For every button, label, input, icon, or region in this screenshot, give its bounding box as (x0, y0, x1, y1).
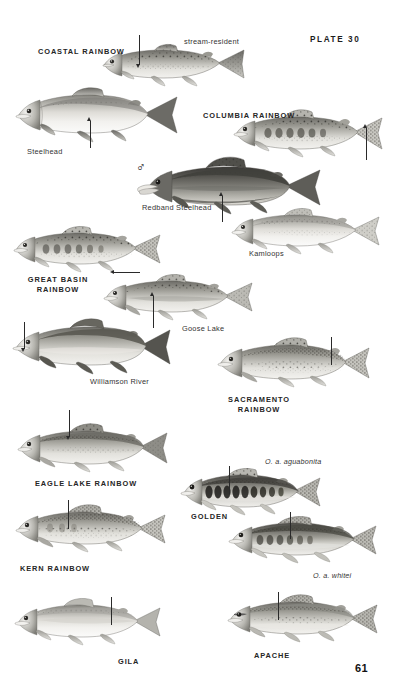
fish-kamloops (226, 207, 388, 255)
label-sacramento-rainbow-line2: RAINBOW (222, 405, 296, 414)
label-oa-whitei: O. a. whitei (313, 571, 351, 580)
label-stream-resident: stream-resident (184, 37, 239, 46)
fish-goose-lake (98, 272, 260, 322)
leader-williamson-river (24, 322, 25, 349)
fish-steelhead (10, 88, 185, 144)
fish-apache (222, 592, 386, 646)
label-kamloops: Kamloops (249, 249, 284, 258)
fish-great-basin-rainbow (8, 224, 168, 274)
leader-arrow-eagle-lake-rainbow (66, 436, 70, 440)
leader-golden-whitei (290, 512, 291, 539)
label-columbia-rainbow: COLUMBIA RAINBOW (203, 111, 295, 120)
label-sacramento-rainbow-line1: SACRAMENTO (222, 395, 296, 404)
label-williamson-river: Williamson River (90, 377, 149, 386)
fish-sacramento-rainbow (212, 336, 378, 390)
leader-arrow-coastal-rainbow (136, 64, 140, 68)
leader-apache (278, 592, 279, 620)
label-great-basin-rainbow-line1: GREAT BASIN (18, 275, 98, 284)
leader-arrow-goose-lake (150, 292, 154, 296)
leader-arrow-williamson-river (21, 348, 25, 352)
plate-page: COASTAL RAINBOW stream-resident PLATE 30 (0, 0, 396, 694)
label-male-symbol: ♂ (136, 159, 146, 175)
fish-gila (10, 596, 170, 648)
label-great-basin-rainbow-line2: RAINBOW (18, 285, 98, 294)
label-apache: APACHE (254, 651, 290, 660)
leader-gila (111, 597, 112, 625)
fish-eagle-lake-rainbow (12, 422, 176, 474)
fish-golden-aguabonita (176, 467, 328, 517)
leader-columbia-rainbow (366, 128, 367, 160)
leader-sacramento-rainbow (331, 337, 332, 365)
label-redband-steelhead: Redband Steelhead (142, 203, 212, 212)
leader-kern-rainbow (68, 500, 69, 529)
label-golden: GOLDEN (191, 512, 228, 521)
fish-kern-rainbow (10, 503, 174, 555)
leader-golden-aguabonita (229, 466, 230, 494)
page-number: 61 (355, 662, 368, 676)
leader-steelhead (90, 121, 91, 148)
leader-eagle-lake-rainbow (69, 410, 70, 437)
label-oa-aguabonita: O. a. aguabonita (265, 457, 321, 466)
leader-arrow-redband-steelhead (219, 192, 223, 196)
leader-arrow-columbia-rainbow (363, 124, 367, 128)
label-gila: GILA (118, 657, 139, 666)
leader-redband-steelhead (222, 196, 223, 222)
fish-williamson-river (8, 318, 178, 376)
leader-coastal-rainbow (139, 35, 140, 65)
label-plate-title: PLATE 30 (310, 35, 360, 45)
label-steelhead: Steelhead (27, 147, 63, 156)
label-coastal-rainbow: COASTAL RAINBOW (38, 47, 125, 56)
label-kern-rainbow: KERN RAINBOW (20, 564, 90, 573)
fish-golden-whitei (224, 514, 384, 566)
label-eagle-lake-rainbow: EAGLE LAKE RAINBOW (35, 479, 137, 488)
leader-arrow-steelhead (87, 117, 91, 121)
label-goose-lake: Goose Lake (182, 324, 224, 333)
